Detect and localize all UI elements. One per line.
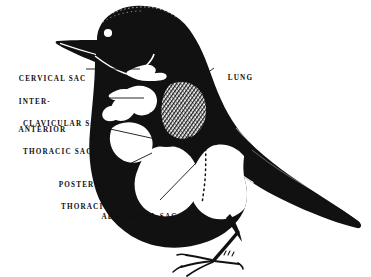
label-anterior-thoracic-sac-line1: ANTERIOR xyxy=(18,126,66,134)
label-lung: LUNG xyxy=(216,62,253,95)
bird-air-sac-diagram: CERVICAL SAC INTER- CLAVICULAR SAC ANTER… xyxy=(0,0,371,277)
label-abdominal-sac: ABDOMINAL SAC xyxy=(90,201,178,234)
beak xyxy=(57,41,97,60)
eye xyxy=(104,29,112,37)
label-cervical-sac-line1: CERVICAL SAC xyxy=(19,75,87,83)
label-posterior-thoracic-sac-line1: POSTERIOR xyxy=(59,181,112,189)
label-abdominal-sac-line1: ABDOMINAL SAC xyxy=(101,213,177,221)
label-lung-line1: LUNG xyxy=(228,74,253,82)
label-interclavicular-sac-line1: INTER- xyxy=(19,98,51,106)
lung xyxy=(161,81,207,139)
label-anterior-thoracic-sac-line2: THORACIC SAC xyxy=(7,147,93,158)
tail xyxy=(243,150,360,227)
